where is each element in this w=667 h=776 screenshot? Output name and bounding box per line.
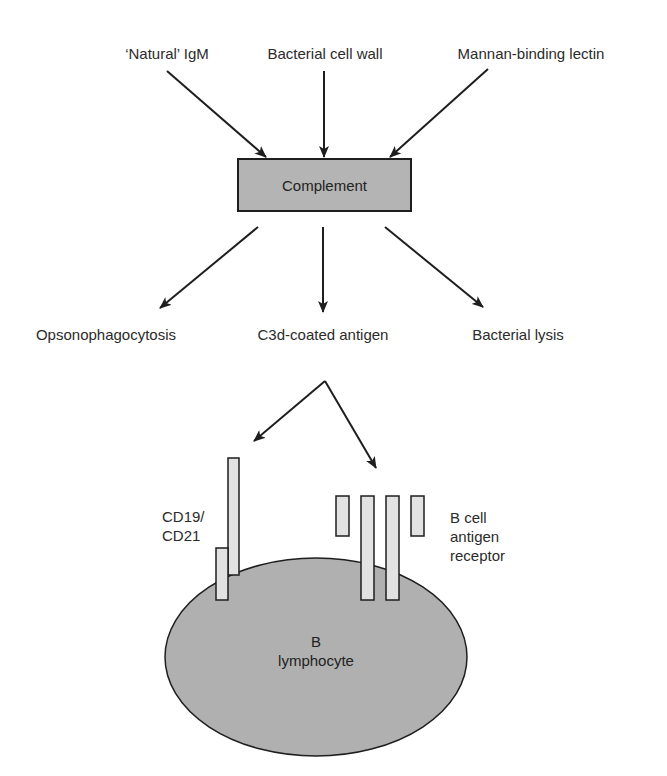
b-lymphocyte-label: B lymphocyte [278,632,354,670]
cd19-cd21-label: CD19/ CD21 [162,507,205,545]
arrow-igm-to-complement [167,71,266,157]
input-label-bacterial-cell-wall: Bacterial cell wall [267,45,382,63]
arrow-to-cd19-cd21 [254,381,325,441]
bcr-label-line1: B cell [450,508,505,527]
cd21-bar [228,458,239,575]
output-label-c3d-coated-antigen: C3d-coated antigen [258,326,389,344]
output-label-bacterial-lysis: Bacterial lysis [472,326,564,344]
bcr-heavy-chain-left [361,496,374,600]
b-lymphocyte-label-line2: lymphocyte [278,651,354,670]
arrow-to-opsonophagocytosis [160,227,258,308]
bcr-label-line2: antigen [450,527,505,546]
arrow-to-bcr [325,381,376,468]
cd19-cd21-label-line2: CD21 [162,526,205,545]
b-lymphocyte-label-line1: B [278,632,354,651]
input-label-mannan-binding-lectin: Mannan-binding lectin [458,45,605,63]
arrow-mbl-to-complement [390,69,488,157]
cd19-cd21-label-line1: CD19/ [162,507,205,526]
bcr-light-chain-left [336,496,349,536]
output-label-opsonophagocytosis: Opsonophagocytosis [36,326,176,344]
cd19-bar [216,548,228,600]
complement-label: Complement [238,159,411,211]
arrow-to-bacterial-lysis [385,227,483,307]
bcr-label: B cell antigen receptor [450,508,505,565]
bcr-label-line3: receptor [450,546,505,565]
bcr-heavy-chain-right [386,496,399,600]
input-label-natural-igm: ‘Natural’ IgM [125,45,209,63]
bcr-light-chain-right [411,496,424,536]
